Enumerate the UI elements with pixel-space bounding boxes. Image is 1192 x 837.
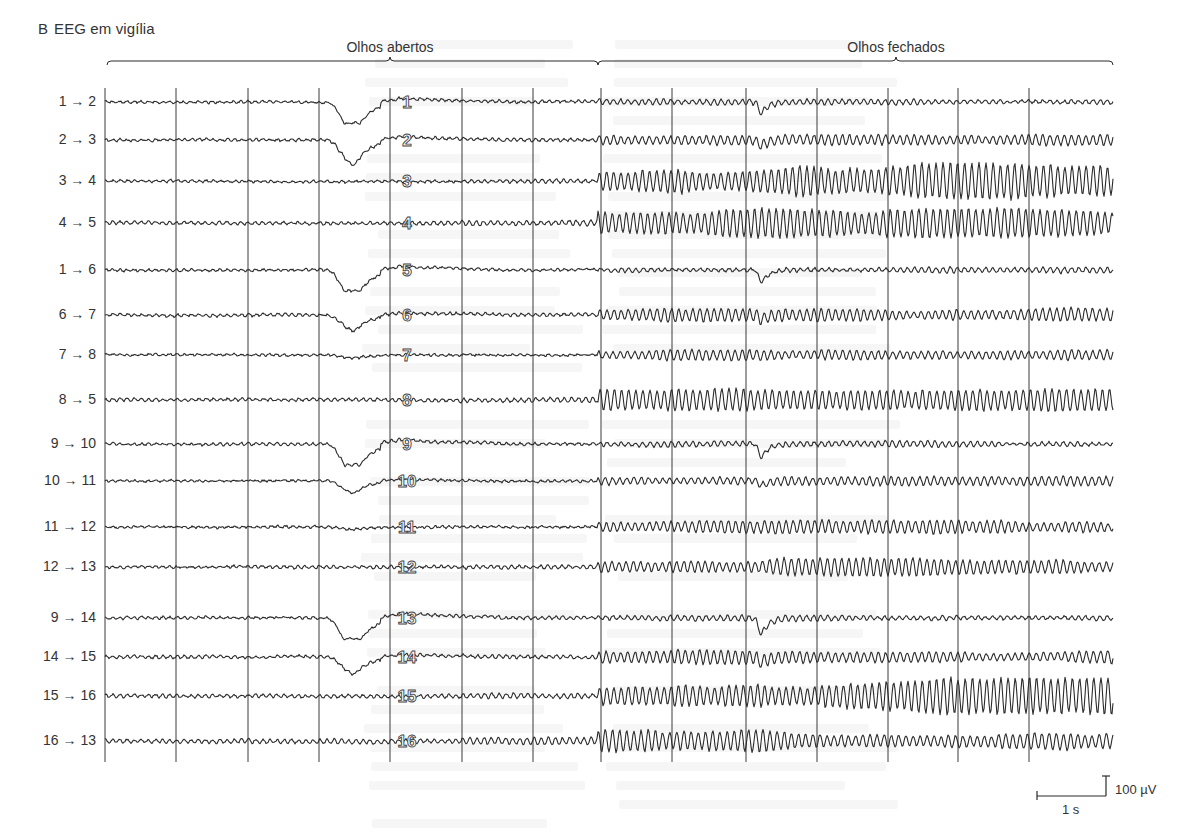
electrode-number-label: 4 bbox=[402, 214, 412, 233]
eeg-trace-channel-9-to-10 bbox=[105, 438, 1113, 467]
eeg-trace-channel-6-to-7 bbox=[105, 307, 1113, 332]
eeg-trace-channel-11-to-12 bbox=[105, 519, 1113, 534]
eeg-trace-channel-1-to-2 bbox=[105, 97, 1113, 125]
scale-bar bbox=[1037, 776, 1110, 800]
eeg-trace-channel-15-to-16 bbox=[105, 677, 1113, 715]
electrode-number-label: 3 bbox=[402, 172, 411, 191]
electrode-number-label: 13 bbox=[398, 609, 417, 628]
eeg-trace-channel-16-to-13 bbox=[105, 729, 1113, 753]
electrode-number-label: 16 bbox=[398, 732, 417, 751]
electrode-number-label: 12 bbox=[398, 558, 417, 577]
electrode-number-label: 6 bbox=[402, 306, 411, 325]
eeg-trace-channel-1-to-6 bbox=[105, 265, 1113, 292]
electrode-number-label: 1 bbox=[402, 93, 411, 112]
eeg-trace-channel-10-to-11 bbox=[105, 476, 1113, 494]
electrode-number-label: 5 bbox=[402, 261, 411, 280]
eeg-traces-plot: 12345678910111213141516 bbox=[0, 0, 1192, 837]
bracket-eyes-closed bbox=[598, 57, 1113, 65]
electrode-number-label: 10 bbox=[398, 472, 417, 491]
eeg-trace-channel-12-to-13 bbox=[105, 557, 1113, 577]
eeg-trace-channel-3-to-4 bbox=[105, 162, 1113, 200]
electrode-number-label: 14 bbox=[398, 648, 417, 667]
eeg-trace-channel-2-to-3 bbox=[105, 134, 1113, 165]
bracket-eyes-open bbox=[107, 57, 598, 65]
eeg-figure: BEEG em vigília Olhos abertos Olhos fech… bbox=[0, 0, 1192, 837]
scale-bar-amplitude-label: 100 µV bbox=[1115, 782, 1156, 797]
eeg-trace-channel-9-to-14 bbox=[105, 612, 1113, 640]
electrode-number-label: 2 bbox=[402, 131, 411, 150]
electrode-number-label: 15 bbox=[398, 687, 417, 706]
eeg-trace-channel-7-to-8 bbox=[105, 349, 1113, 361]
eeg-trace-channel-14-to-15 bbox=[105, 649, 1113, 675]
electrode-number-label: 7 bbox=[402, 346, 411, 365]
scale-bar-time-label: 1 s bbox=[1062, 802, 1079, 817]
eeg-trace-channel-8-to-5 bbox=[105, 388, 1113, 412]
electrode-number-label: 9 bbox=[402, 435, 411, 454]
electrode-number-label: 11 bbox=[398, 518, 416, 537]
electrode-number-label: 8 bbox=[402, 391, 411, 410]
eeg-trace-channel-4-to-5 bbox=[105, 207, 1113, 238]
